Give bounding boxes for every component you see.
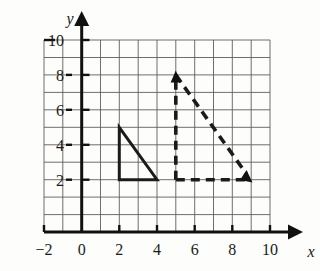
x-axis-label: x <box>306 243 314 260</box>
x-tick-label-0: 0 <box>78 241 86 258</box>
y-tick-label-4: 4 <box>56 137 64 154</box>
y-tick-label-8: 8 <box>56 67 64 84</box>
coordinate-plane-figure: 10 8 6 4 2 −2 0 2 4 6 8 10 y x <box>0 0 320 271</box>
x-tick-label-10: 10 <box>262 241 278 258</box>
x-tick-label-8: 8 <box>228 241 236 258</box>
x-tick-label--2: −2 <box>35 241 52 258</box>
y-axis-label: y <box>64 10 74 28</box>
x-tick-label-4: 4 <box>153 241 161 258</box>
y-tick-label-10: 10 <box>48 32 64 49</box>
y-tick-label-6: 6 <box>56 102 64 119</box>
x-tick-label-6: 6 <box>191 241 199 258</box>
y-tick-label-2: 2 <box>56 172 64 189</box>
x-tick-label-2: 2 <box>115 241 123 258</box>
